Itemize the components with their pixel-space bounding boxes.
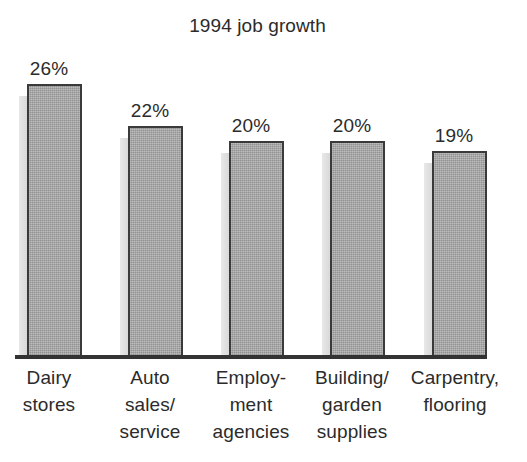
category-label-line: stores [0, 391, 101, 418]
bar-value-label: 22% [118, 100, 182, 122]
bar-building-garden-supplies[interactable] [330, 141, 385, 358]
category-label-carpentry-flooring: Carpentry, flooring [403, 364, 507, 418]
category-label-line: service [98, 418, 202, 445]
plot-area: 26% 22% 20% 20% 19% [0, 0, 527, 358]
category-axis-labels: Dairy stores Auto sales/ service Employ-… [0, 364, 527, 462]
category-label-line: garden [300, 391, 404, 418]
bar-value-label: 20% [219, 115, 283, 137]
category-label-line: flooring [403, 391, 507, 418]
category-label-auto-sales-service: Auto sales/ service [98, 364, 202, 445]
bar-value-label: 26% [17, 58, 81, 80]
bar-value-label: 19% [422, 125, 486, 147]
category-label-line: Carpentry, [403, 364, 507, 391]
bar-value-label: 20% [320, 115, 384, 137]
category-label-employment-agencies: Employ- ment agencies [199, 364, 303, 445]
category-label-building-garden-supplies: Building/ garden supplies [300, 364, 404, 445]
category-label-line: agencies [199, 418, 303, 445]
category-label-line: Employ- [199, 364, 303, 391]
category-label-line: Auto [98, 364, 202, 391]
bar-employment-agencies[interactable] [229, 141, 284, 358]
category-label-line: ment [199, 391, 303, 418]
bar-carpentry-flooring[interactable] [432, 151, 487, 358]
bar-dairy-stores[interactable] [27, 84, 82, 358]
category-label-line: sales/ [98, 391, 202, 418]
bar-auto-sales-service[interactable] [128, 126, 183, 358]
category-label-dairy-stores: Dairy stores [0, 364, 101, 418]
category-label-line: Dairy [0, 364, 101, 391]
bar-chart: 1994 job growth 26% 22% 20% 20% 19% [0, 0, 527, 462]
category-label-line: Building/ [300, 364, 404, 391]
category-label-line: supplies [300, 418, 404, 445]
x-axis-baseline [15, 355, 487, 359]
